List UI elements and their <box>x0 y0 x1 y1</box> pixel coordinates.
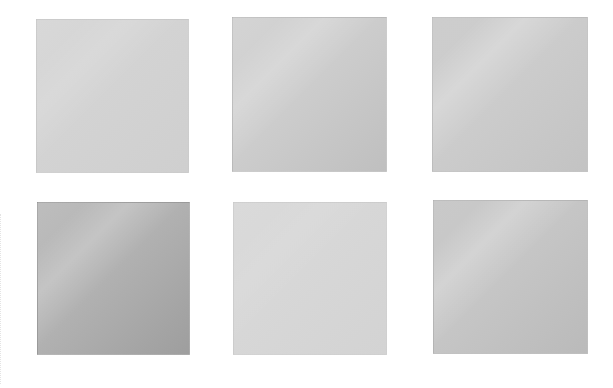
swatch-tile[interactable] <box>232 17 387 172</box>
swatch-tile[interactable] <box>37 202 190 355</box>
swatch-tile[interactable] <box>433 200 588 354</box>
swatch-tile[interactable] <box>36 19 189 173</box>
left-edge-dotted-border <box>0 214 1 384</box>
swatch-tile[interactable] <box>233 202 387 355</box>
swatch-sheen <box>233 18 386 171</box>
swatch-sheen <box>433 18 587 171</box>
swatch-sheen <box>234 203 386 354</box>
swatch-sheen <box>37 20 188 172</box>
swatch-tile[interactable] <box>432 17 588 172</box>
swatch-sheen <box>38 203 189 354</box>
swatch-sheen <box>434 201 587 353</box>
